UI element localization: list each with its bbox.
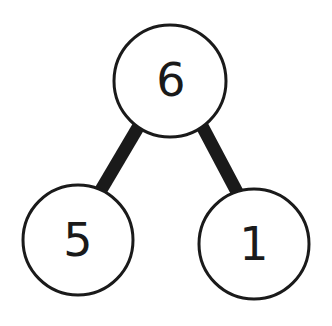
number-bond-diagram: 6 5 1 [0, 0, 332, 326]
part-node-right: 1 [199, 189, 309, 299]
whole-label: 6 [156, 53, 185, 107]
part-right-label: 1 [239, 217, 268, 271]
whole-node: 6 [114, 25, 226, 137]
part-node-left: 5 [23, 185, 133, 295]
connector-right [201, 124, 237, 192]
connector-left [101, 124, 140, 190]
part-left-label: 5 [63, 213, 92, 267]
